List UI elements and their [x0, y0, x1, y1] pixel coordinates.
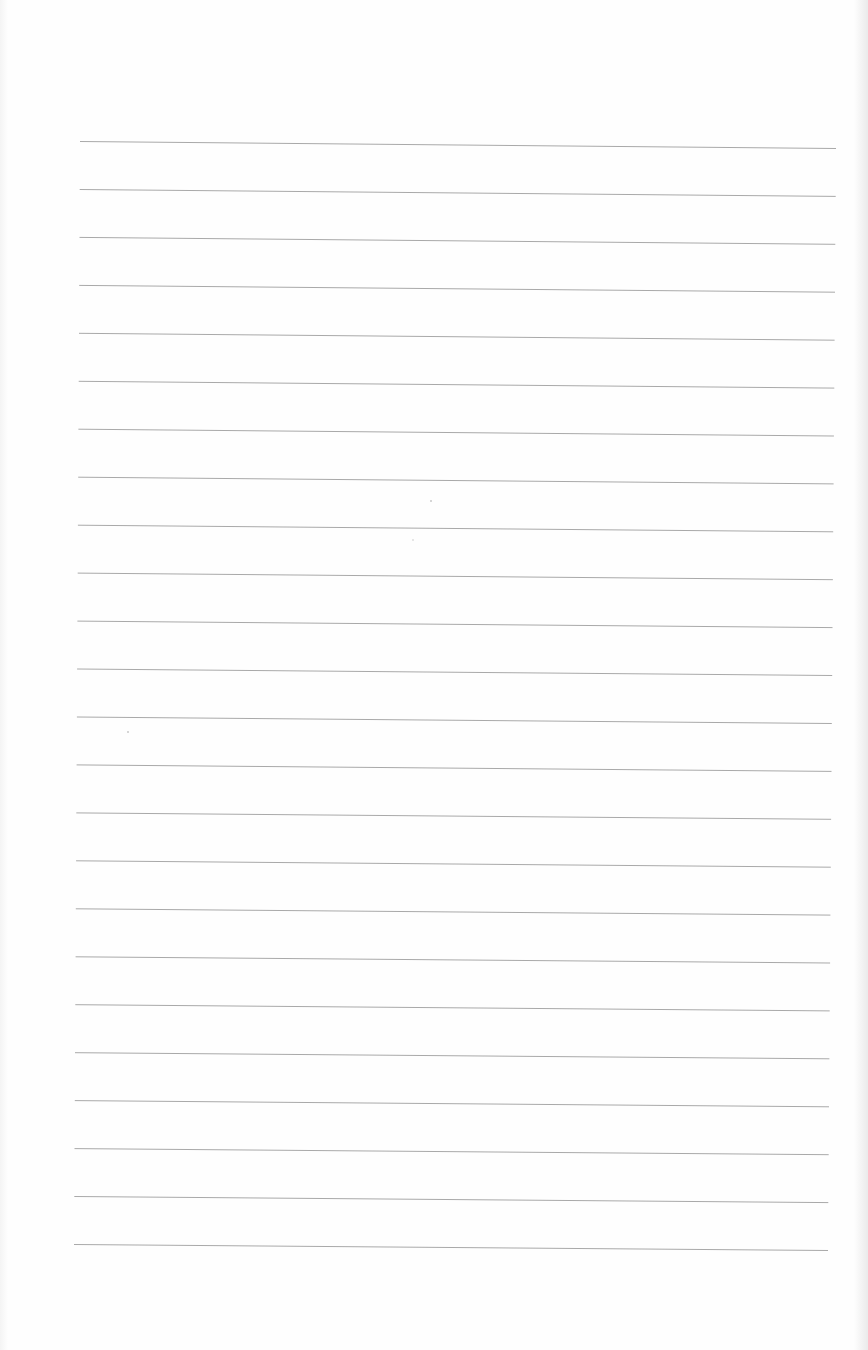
ruled-line [76, 813, 831, 819]
ruled-line [74, 1245, 828, 1251]
ruled-line [77, 669, 832, 676]
ruled-line [80, 142, 836, 149]
ruled-line [78, 477, 833, 484]
ruled-line [79, 333, 835, 340]
ruled-line [76, 957, 831, 963]
ruled-line [75, 1005, 829, 1011]
ruled-line [78, 573, 833, 580]
ruled-line [75, 1053, 829, 1059]
dust-speck [430, 500, 432, 502]
ruled-line [80, 237, 836, 244]
ruled-line [79, 285, 835, 292]
dust-speck [412, 539, 414, 541]
ruled-line [74, 1197, 828, 1203]
ruled-line [79, 381, 835, 388]
ruled-lines [0, 0, 868, 1350]
ruled-line [75, 1101, 829, 1107]
ruled-line [77, 765, 832, 772]
ruled-line [78, 525, 833, 532]
notebook-page [0, 0, 868, 1350]
dust-speck [127, 731, 129, 733]
ruled-line [76, 861, 831, 867]
ruled-line [77, 717, 832, 724]
ruled-line [75, 1149, 829, 1155]
ruled-line [80, 190, 836, 197]
ruled-line [76, 909, 831, 915]
ruled-line [77, 621, 832, 628]
ruled-line [78, 429, 834, 436]
